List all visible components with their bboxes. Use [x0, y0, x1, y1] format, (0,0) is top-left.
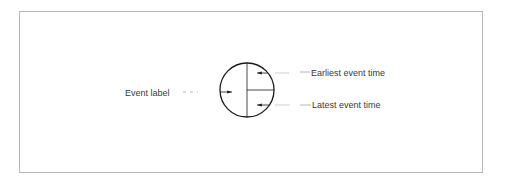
event-label-text: Event label — [125, 88, 170, 98]
event-node-diagram: Event label Earliest event time Latest e… — [0, 0, 505, 186]
earliest-event-time-text: Earliest event time — [311, 68, 385, 78]
earliest-pointer — [257, 72, 310, 73]
event-node-circle — [220, 63, 274, 117]
latest-event-time-text: Latest event time — [312, 100, 381, 110]
